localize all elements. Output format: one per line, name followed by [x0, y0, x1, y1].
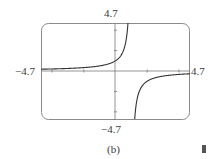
end-marker	[202, 145, 206, 153]
x-min-label: −4.7	[15, 66, 35, 77]
figure-caption: (b)	[107, 143, 120, 155]
curve-right-branch	[135, 74, 190, 119]
y-max-label: 4.7	[104, 8, 118, 19]
x-max-label: 4.7	[191, 66, 205, 77]
graph-plot	[0, 0, 208, 159]
plot-frame	[42, 24, 190, 120]
y-min-label: −4.7	[101, 124, 121, 135]
